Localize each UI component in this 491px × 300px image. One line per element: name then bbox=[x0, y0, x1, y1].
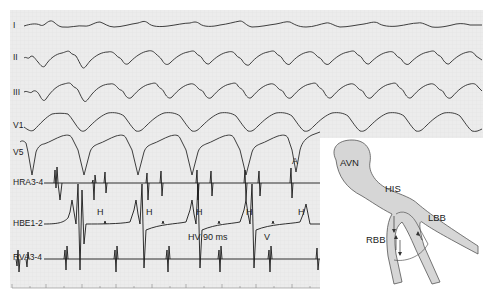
hv-interval-label: HV 90 ms bbox=[188, 232, 228, 242]
ecg-egm-figure: I II III V1 V5 HRA3-4 HBE1-2 RVA3-4 bbox=[0, 0, 491, 300]
lead-label-HBE1-2: HBE1-2 bbox=[13, 218, 43, 228]
diagram-label-rbb: RBB bbox=[366, 234, 386, 245]
his-label-5: H bbox=[298, 207, 305, 217]
his-label-4: H bbox=[246, 207, 253, 217]
his-label-2: H bbox=[146, 207, 153, 217]
lead-label-V1: V1 bbox=[13, 120, 24, 130]
diagram-label-his: HIS bbox=[385, 183, 401, 194]
lead-label-HRA3-4: HRA3-4 bbox=[13, 177, 44, 187]
ventricular-label: V bbox=[264, 232, 270, 242]
his-label-3: H bbox=[196, 207, 203, 217]
lead-label-V5: V5 bbox=[13, 147, 24, 157]
diagram-label-lbb: LBB bbox=[428, 212, 446, 223]
diagram-label-avn: AVN bbox=[340, 157, 359, 168]
lead-label-III: III bbox=[13, 87, 20, 97]
lead-label-II: II bbox=[13, 52, 18, 62]
his-label-1: H bbox=[97, 207, 104, 217]
atrial-label: A bbox=[292, 156, 298, 166]
lead-label-I: I bbox=[13, 20, 15, 30]
conduction-system-diagram: AVN HIS LBB RBB bbox=[334, 140, 478, 284]
